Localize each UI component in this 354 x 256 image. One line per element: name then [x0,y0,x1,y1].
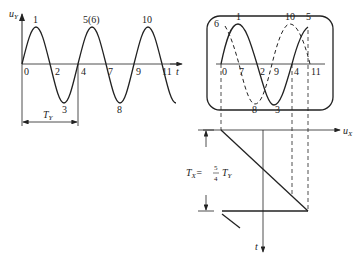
screen-label-3: 3 [275,104,280,115]
projection-lines [221,30,308,211]
zero-label-2: 2 [55,66,60,77]
oscilloscope-screen: 6 1 10 5 0 7 2 9 4 11 8 3 [207,11,333,115]
trough-label-8: 8 [117,104,122,115]
y-signal-sine [22,27,176,103]
screen-axis-label-0: 0 [222,66,227,77]
screen-frame [207,16,333,110]
svg-text:TY: TY [222,167,233,180]
left-waveform-plot: uY t 1 5(6) 10 3 8 0 2 4 7 9 11 TY [9,8,179,126]
screen-label-1: 1 [236,11,241,22]
screen-axis-label-2: 2 [260,66,265,77]
t-axis-label: t [255,241,258,252]
svg-text:4: 4 [214,175,218,183]
period-formula: TX= 5 4 TY [186,164,233,183]
sawtooth-ramp [221,130,308,211]
period-label: TY [43,109,54,122]
zero-label-11: 11 [162,66,172,77]
screen-label-6: 6 [214,18,219,29]
svg-text:TX=: TX= [186,167,203,180]
svg-text:5: 5 [214,164,218,172]
screen-trace-solid [221,24,308,105]
screen-axis-label-7: 7 [239,66,244,77]
ux-axis-label: uX [343,125,353,138]
screen-axis-label-9: 9 [274,66,279,77]
screen-label-8: 8 [252,104,257,115]
screen-axis-label-11: 11 [311,66,321,77]
screen-label-5: 5 [306,11,311,22]
screen-axis-label-4: 4 [294,66,299,77]
trough-label-3: 3 [62,104,67,115]
zero-label-7: 7 [108,66,113,77]
sawtooth-next-ramp [222,214,240,228]
zero-label-4: 4 [81,66,86,77]
t-axis-label: t [176,66,179,77]
peak-label-1: 1 [33,14,38,25]
oscilloscope-diagram: uY t 1 5(6) 10 3 8 0 2 4 7 9 11 TY 6 1 1… [0,0,354,256]
screen-label-10: 10 [285,11,295,22]
peak-label-10: 10 [142,14,152,25]
zero-label-9: 9 [136,66,141,77]
zero-label-0: 0 [24,66,29,77]
sweep-sawtooth-plot: uX t TX= 5 4 TY [186,125,353,252]
peak-label-5-6: 5(6) [83,14,100,26]
y-axis-label: uY [9,8,19,21]
